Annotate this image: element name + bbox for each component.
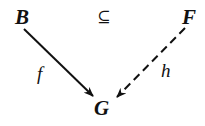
node-B: B: [14, 5, 29, 29]
subset-eq-symbol: ⊆: [97, 7, 110, 26]
node-F: F: [181, 5, 196, 29]
node-G: G: [94, 96, 109, 120]
arrow-h-dashed: [117, 28, 185, 97]
commutative-diagram: B ⊆ F G f h: [0, 0, 205, 126]
arrow-f: [24, 29, 93, 96]
edge-label-h: h: [161, 60, 171, 81]
edge-label-f: f: [37, 63, 45, 84]
